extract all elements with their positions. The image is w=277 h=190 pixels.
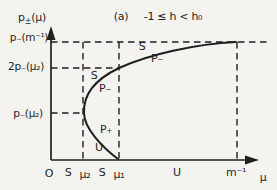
y-axis-label: p±(μ) xyxy=(18,12,46,26)
y-tick-p-minus-m-inv: p₋(m⁻¹) xyxy=(10,32,48,43)
x-tick-m-inv: m⁻¹ xyxy=(226,167,246,178)
figure-panel-index: (a) xyxy=(114,11,128,22)
x-region-s2: S xyxy=(99,167,106,178)
figure-canvas xyxy=(0,0,277,190)
lower-branch-u-label: U xyxy=(95,142,103,153)
x-tick-mu2: μ₂ xyxy=(80,169,91,180)
x-region-s1: S xyxy=(65,167,72,178)
y-axis-label-p: p xyxy=(18,11,25,24)
upper-branch-p-minus-label: P₋ xyxy=(151,53,163,64)
x-tick-origin: O xyxy=(45,168,53,179)
x-region-u: U xyxy=(173,167,181,178)
y-tick-2p-minus-mu2: 2p₋(μ₂) xyxy=(8,61,44,72)
x-axis-label: μ xyxy=(260,172,267,183)
x-axis-arrowhead xyxy=(245,156,259,165)
upper-branch-s-label: S xyxy=(139,41,146,52)
mid-branch-s-label: S xyxy=(91,70,98,81)
x-tick-mu1: μ₁ xyxy=(114,169,125,180)
lower-branch-p-plus-label: P₊ xyxy=(100,124,112,135)
y-axis-label-arg: (μ) xyxy=(31,11,46,24)
figure-condition: -1 ≤ h < h₀ xyxy=(144,11,202,22)
y-tick-p-minus-mu2: p₋(μ₂) xyxy=(13,108,43,119)
mid-branch-p-minus-label: P₋ xyxy=(99,83,111,94)
bifurcation-diagram-figure: (a) -1 ≤ h < h₀ p±(μ) p₋(m⁻¹) 2p₋(μ₂) p₋… xyxy=(0,0,277,190)
